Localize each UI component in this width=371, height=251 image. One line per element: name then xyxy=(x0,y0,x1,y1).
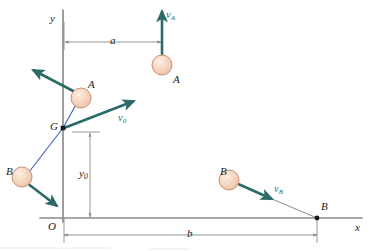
velocity-a-from-ball-a xyxy=(33,70,77,93)
leader-lines-group xyxy=(272,199,317,218)
ball-b-lower-left-label: B xyxy=(6,166,13,177)
ball-b-lower-left-texture xyxy=(13,168,32,187)
dimension-a-label: a xyxy=(110,35,116,46)
point-b-label: B xyxy=(321,201,328,212)
velocity-b-from-ball-b-left xyxy=(27,183,57,206)
particle-b-landing-marker xyxy=(315,216,320,221)
ball-a-upper-right-texture xyxy=(153,56,172,75)
velocity-nought-from-g-label: v0 xyxy=(118,113,126,125)
ball-a-upper-right-label: A xyxy=(173,74,180,85)
leader-vb-to-point-b xyxy=(272,199,317,218)
x-axis-label: x xyxy=(355,222,360,233)
ball-b-right-label: B xyxy=(220,166,227,177)
mass-center-marker xyxy=(61,126,66,131)
velocity-b-right-label: vB xyxy=(274,184,283,196)
dimension-lines-group xyxy=(64,42,317,235)
velocity-b-right xyxy=(236,183,272,199)
connector-lines-group xyxy=(29,101,78,172)
mass-center-label: G xyxy=(50,121,58,132)
dimension-y-nought-label: y0 xyxy=(79,168,88,180)
velocity-a-upper-right-label: vA xyxy=(166,10,175,22)
connector-g-to-ball-b xyxy=(29,128,63,172)
dimension-b-label: b xyxy=(187,228,193,239)
ball-a-at-g-frame-label: A xyxy=(88,79,95,90)
point-markers-group xyxy=(61,126,320,221)
origin-label: O xyxy=(48,221,56,232)
ball-a-at-g-frame-texture xyxy=(72,89,91,108)
scan-artifact xyxy=(0,247,110,249)
y-axis-label: y xyxy=(50,13,55,24)
scan-artifact xyxy=(150,248,190,250)
extension-lines-group xyxy=(64,22,317,243)
